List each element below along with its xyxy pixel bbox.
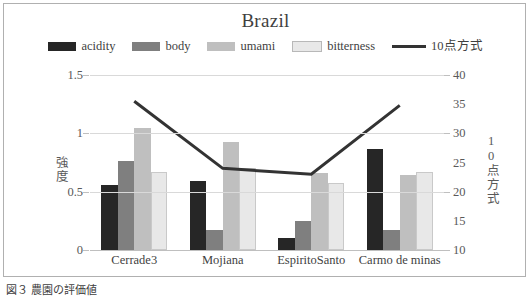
legend-swatch-icon <box>292 41 322 52</box>
legend-label: bitterness <box>327 40 375 53</box>
secondary-y-axis-tick-label: 15 <box>453 213 466 228</box>
x-axis-category-labels: Cerrade3MojianaEspiritoSantoCarmo de min… <box>90 253 444 273</box>
legend-item-bitterness[interactable]: bitterness <box>292 40 375 53</box>
legend-swatch-icon <box>132 42 160 51</box>
secondary-y-axis-tick-mark <box>444 75 450 76</box>
y-axis-tick-label: 1.5 <box>67 68 83 83</box>
legend-item-10点方式[interactable]: 10点方式 <box>392 40 483 53</box>
secondary-y-axis-tick-mark <box>444 192 450 193</box>
legend-item-body[interactable]: body <box>132 40 190 53</box>
y-axis-tick-mark <box>83 75 89 76</box>
secondary-y-axis-tick-label: 25 <box>453 155 466 170</box>
gridline <box>90 75 444 76</box>
y-axis-tick-label: 0.5 <box>67 184 83 199</box>
plot-area: 00.511.510152025303540 <box>90 75 444 250</box>
line-series-layer <box>90 75 444 250</box>
secondary-y-axis-tick-label: 40 <box>453 68 466 83</box>
secondary-y-axis-tick-label: 30 <box>453 126 466 141</box>
x-axis-label-Mojiana: Mojiana <box>202 253 244 268</box>
y-axis-tick-mark <box>83 250 89 251</box>
figure-caption: 図３ 農園の評価値 <box>6 281 97 297</box>
legend-label: body <box>165 40 190 53</box>
gridline <box>90 250 444 251</box>
y-axis-tick-mark <box>83 192 89 193</box>
secondary-y-axis-tick-label: 20 <box>453 184 466 199</box>
x-axis-label-EspiritoSanto: EspiritoSanto <box>277 253 345 268</box>
line-series-10点方式[interactable] <box>134 101 400 174</box>
chart-legend: aciditybodyumamibitterness10点方式 <box>4 40 527 53</box>
legend-item-acidity[interactable]: acidity <box>48 40 115 53</box>
x-axis-label-Carmo de minas: Carmo de minas <box>359 253 441 268</box>
legend-label: 10点方式 <box>431 40 483 53</box>
chart-title: Brazil <box>4 10 527 32</box>
legend-label: acidity <box>81 40 115 53</box>
legend-label: umami <box>240 40 275 53</box>
secondary-y-axis-title: 10点方式 <box>482 134 501 206</box>
legend-swatch-icon <box>207 42 235 51</box>
y-axis-tick-label: 1 <box>77 126 83 141</box>
y-axis-tick-mark <box>83 133 89 134</box>
chart-frame: Brazil aciditybodyumamibitterness10点方式 強… <box>3 3 526 277</box>
y-axis-tick-label: 0 <box>77 243 83 258</box>
legend-line-marker-icon <box>392 45 426 48</box>
secondary-y-axis-tick-mark <box>444 250 450 251</box>
legend-swatch-icon <box>48 42 76 51</box>
gridline <box>90 192 444 193</box>
secondary-y-axis-tick-label: 35 <box>453 97 466 112</box>
legend-item-umami[interactable]: umami <box>207 40 275 53</box>
gridline <box>90 133 444 134</box>
secondary-y-axis-tick-label: 10 <box>453 243 466 258</box>
y-axis-title: 強度 <box>51 156 70 184</box>
secondary-y-axis-tick-mark <box>444 133 450 134</box>
x-axis-label-Cerrade3: Cerrade3 <box>111 253 157 268</box>
